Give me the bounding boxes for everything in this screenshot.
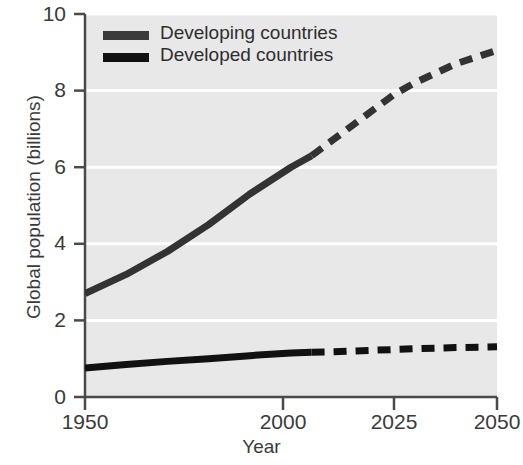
x-axis-title: Year [0, 436, 523, 458]
x-tick-label-2050: 2050 [457, 410, 523, 434]
y-axis-title: Global population (billions) [23, 77, 45, 337]
legend-label-developing: Developing countries [160, 22, 337, 44]
legend-swatch-developing [103, 31, 149, 40]
y-tick-label-0: 0 [26, 385, 66, 409]
plot-area-background [85, 14, 497, 397]
x-axis-ticks [85, 397, 497, 410]
y-tick-label-10: 10 [26, 2, 66, 26]
chart-figure: 10 8 6 4 2 0 1950 2000 2025 2050 Global … [0, 0, 523, 465]
legend-label-developed: Developed countries [160, 44, 333, 66]
legend-swatch-developed [103, 53, 149, 62]
x-tick-label-2000: 2000 [243, 410, 323, 434]
chart-canvas [0, 0, 523, 465]
x-tick-label-2025: 2025 [354, 410, 434, 434]
y-axis-ticks [74, 14, 85, 397]
x-tick-label-1950: 1950 [45, 410, 125, 434]
